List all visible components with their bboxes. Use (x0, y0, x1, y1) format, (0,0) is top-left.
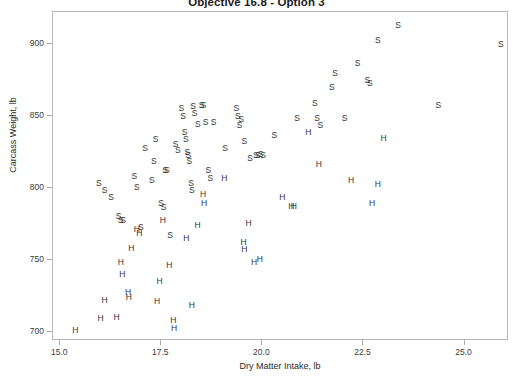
data-point-marker-h: H (221, 174, 227, 183)
data-point-marker-s: S (189, 186, 195, 195)
x-axis-tick (464, 340, 465, 345)
data-point-marker-s: S (208, 174, 214, 183)
data-point-marker-s: S (395, 21, 401, 30)
data-point-marker-h: H (245, 219, 251, 228)
data-point-marker-h: H (118, 258, 124, 267)
data-point-marker-s: S (192, 109, 198, 118)
data-point-marker-s: S (375, 36, 381, 45)
data-point-marker-h: H (166, 261, 172, 270)
y-axis-tick (47, 259, 52, 260)
x-axis-tick-label: 22.5 (354, 347, 371, 357)
x-axis-tick (362, 340, 363, 345)
y-axis-tick-label: 800 (30, 182, 44, 192)
data-point-marker-s: S (367, 79, 373, 88)
data-point-marker-h: H (97, 314, 103, 323)
data-point-marker-h: H (194, 220, 200, 229)
data-point-marker-s: S (164, 165, 170, 174)
data-point-marker-h: H (316, 160, 322, 169)
data-point-marker-s: S (134, 183, 140, 192)
data-point-marker-s: S (142, 144, 148, 153)
data-point-marker-s: S (153, 135, 159, 144)
data-point-marker-h: H (156, 277, 162, 286)
data-point-marker-h: H (119, 269, 125, 278)
data-point-marker-h: H (126, 292, 132, 301)
data-point-marker-s: S (342, 114, 348, 123)
x-axis-tick (160, 340, 161, 345)
y-axis-tick-label: 900 (30, 38, 44, 48)
data-point-marker-s: S (167, 230, 173, 239)
data-point-marker-s: S (108, 193, 114, 202)
y-axis-tick (47, 115, 52, 116)
data-point-marker-h: H (375, 180, 381, 189)
data-point-marker-s: S (183, 135, 189, 144)
data-point-marker-h: H (257, 255, 263, 264)
data-point-marker-s: S (318, 121, 324, 130)
data-point-marker-h: H (101, 295, 107, 304)
data-point-marker-s: S (271, 131, 277, 140)
data-point-marker-s: S (175, 145, 181, 154)
data-point-marker-h: H (171, 324, 177, 333)
data-point-marker-h: H (160, 216, 166, 225)
y-axis-tick-label: 750 (30, 254, 44, 264)
data-point-marker-s: S (120, 216, 126, 225)
data-point-marker-s: S (329, 83, 335, 92)
data-point-marker-s: S (203, 118, 209, 127)
x-axis-tick-label: 17.5 (152, 347, 169, 357)
y-axis-tick (47, 43, 52, 44)
data-point-marker-h: H (305, 128, 311, 137)
x-axis-tick (261, 340, 262, 345)
x-axis-tick-label: 25.0 (455, 347, 472, 357)
data-point-marker-h: H (154, 297, 160, 306)
data-point-marker-h: H (291, 202, 297, 211)
data-point-marker-s: S (260, 151, 266, 160)
data-point-marker-s: S (195, 119, 201, 128)
plot-area: SSSSSSSSSSSSSSSSSSSSSSSSSSSSSSSSSSSSSSSS… (52, 11, 508, 340)
y-axis-label: Carcass Weight, lb (8, 75, 18, 195)
data-point-marker-s: S (149, 176, 155, 185)
data-point-marker-s: S (332, 69, 338, 78)
data-point-marker-s: S (151, 157, 157, 166)
data-point-marker-s: S (436, 101, 442, 110)
data-point-marker-s: S (222, 144, 228, 153)
data-point-marker-s: S (102, 186, 108, 195)
data-point-marker-h: H (279, 193, 285, 202)
chart-title: Objective 16.8 - Option 3 (0, 0, 513, 8)
y-axis-tick (47, 331, 52, 332)
data-point-marker-s: S (211, 118, 217, 127)
data-point-marker-h: H (380, 134, 386, 143)
data-point-marker-s: S (201, 101, 207, 110)
data-point-marker-s: S (312, 99, 318, 108)
scatter-chart-figure: Objective 16.8 - Option 3 SSSSSSSSSSSSSS… (0, 0, 513, 379)
x-axis-tick (59, 340, 60, 345)
data-point-marker-h: H (136, 229, 142, 238)
data-point-marker-h: H (241, 245, 247, 254)
data-point-marker-h: H (189, 301, 195, 310)
x-axis-tick-label: 15.0 (51, 347, 68, 357)
data-point-marker-h: H (128, 243, 134, 252)
y-axis-tick-label: 850 (30, 110, 44, 120)
data-point-marker-s: S (355, 59, 361, 68)
data-point-marker-s: S (132, 171, 138, 180)
data-point-marker-s: S (187, 157, 193, 166)
data-point-marker-h: H (348, 176, 354, 185)
x-axis-tick-label: 20.0 (253, 347, 270, 357)
data-point-marker-s: S (294, 114, 300, 123)
data-point-marker-s: S (498, 40, 504, 49)
data-point-marker-h: H (201, 199, 207, 208)
data-point-marker-s: S (161, 203, 167, 212)
data-point-marker-s: S (180, 112, 186, 121)
data-point-marker-h: H (369, 199, 375, 208)
y-axis-tick-label: 700 (30, 326, 44, 336)
data-point-marker-h: H (114, 313, 120, 322)
data-point-marker-s: S (242, 137, 248, 146)
x-axis-label: Dry Matter Intake, lb (52, 361, 508, 371)
data-point-marker-h: H (183, 233, 189, 242)
data-point-marker-s: S (238, 115, 244, 124)
y-axis-tick (47, 187, 52, 188)
data-point-marker-h: H (72, 326, 78, 335)
